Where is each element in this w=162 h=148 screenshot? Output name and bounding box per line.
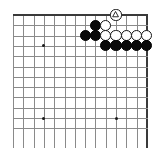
grid-line-horizontal-10 [13,118,148,119]
stone-black-c10-r3[interactable] [110,40,121,51]
stone-black-c7-r2[interactable] [80,30,91,41]
grid-line-horizontal-4 [13,56,148,57]
hoshi-upper-left [42,44,45,47]
stone-black-c13-r3[interactable] [141,40,152,51]
grid-line-horizontal-9 [13,108,148,109]
hoshi-lower-right [115,117,118,120]
hoshi-lower-left [42,117,45,120]
grid-line-horizontal-6 [13,77,148,78]
go-board-diagram [0,0,162,148]
grid-line-horizontal-7 [13,87,148,88]
grid-line-horizontal-1 [13,25,148,26]
grid-line-horizontal-0 [13,14,148,16]
grid-line-horizontal-8 [13,97,148,98]
grid-line-horizontal-11 [13,128,148,129]
grid-line-horizontal-5 [13,67,148,68]
stone-white-c10-r0[interactable] [110,9,121,20]
